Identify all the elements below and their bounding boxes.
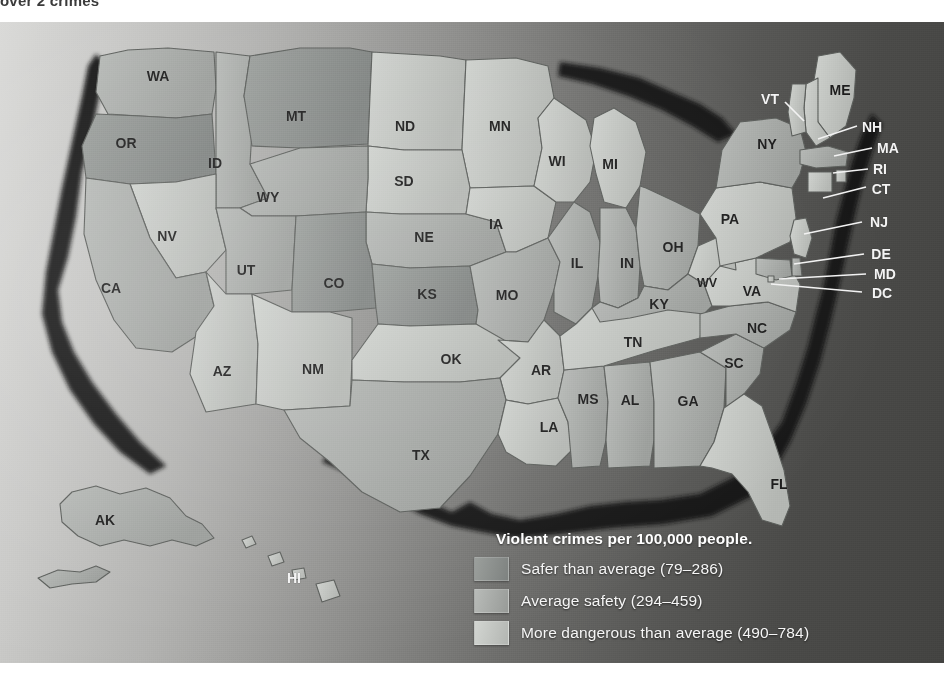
- state-label-AR: AR: [531, 362, 551, 378]
- state-label-TX: TX: [412, 447, 431, 463]
- map-screenshot: over 2 crimes: [0, 0, 944, 675]
- state-label-NM: NM: [302, 361, 324, 377]
- state-label-MI: MI: [602, 156, 618, 172]
- legend-swatch-safer: [474, 557, 509, 581]
- state-label-WV: WV: [697, 276, 718, 290]
- callout-label-MA: MA: [877, 140, 899, 156]
- state-label-NC: NC: [747, 320, 767, 336]
- state-MA: [800, 146, 848, 168]
- state-label-AL: AL: [621, 392, 640, 408]
- map-plate: WAORIDMTNDMNSDWIMIWYNEIAILINOHPANYNVUTCO…: [0, 22, 944, 663]
- state-label-MN: MN: [489, 118, 511, 134]
- state-UT: [216, 208, 296, 294]
- state-CT: [808, 172, 832, 192]
- state-OR: [82, 114, 216, 184]
- callout-label-DE: DE: [871, 246, 890, 262]
- state-label-MS: MS: [578, 391, 599, 407]
- state-label-KS: KS: [417, 286, 436, 302]
- state-label-ID: ID: [208, 155, 222, 171]
- state-label-WI: WI: [548, 153, 565, 169]
- state-label-WY: WY: [257, 189, 280, 205]
- legend-swatch-dangerous: [474, 621, 509, 645]
- legend-swatch-average: [474, 589, 509, 613]
- state-ND: [368, 52, 466, 150]
- callout-label-RI: RI: [873, 161, 887, 177]
- state-label-SC: SC: [724, 355, 743, 371]
- state-label-MO: MO: [496, 287, 519, 303]
- state-label-LA: LA: [540, 419, 559, 435]
- legend-item-dangerous: More dangerous than average (490–784): [474, 621, 920, 645]
- top-caption-text: over 2 crimes: [0, 0, 944, 10]
- state-label-IN: IN: [620, 255, 634, 271]
- state-label-OH: OH: [663, 239, 684, 255]
- state-MT: [244, 48, 372, 148]
- state-label-KY: KY: [649, 296, 669, 312]
- legend-item-average: Average safety (294–459): [474, 589, 920, 613]
- callout-label-DC: DC: [872, 285, 892, 301]
- state-DE: [792, 258, 802, 276]
- legend-title: Violent crimes per 100,000 people.: [496, 530, 920, 548]
- legend-item-safer: Safer than average (79–286): [474, 557, 920, 581]
- callout-label-VT: VT: [761, 91, 779, 107]
- legend-label-safer: Safer than average (79–286): [521, 560, 723, 578]
- callout-label-CT: CT: [872, 181, 891, 197]
- state-label-OK: OK: [441, 351, 462, 367]
- state-NJ: [790, 218, 812, 258]
- callout-label-MD: MD: [874, 266, 896, 282]
- state-WI: [534, 98, 596, 202]
- state-label-ND: ND: [395, 118, 415, 134]
- state-label-IA: IA: [489, 216, 503, 232]
- legend-label-average: Average safety (294–459): [521, 592, 703, 610]
- state-label-AK: AK: [95, 512, 115, 528]
- state-label-WA: WA: [147, 68, 170, 84]
- state-label-CO: CO: [324, 275, 345, 291]
- state-DC: [768, 276, 774, 282]
- state-WY: [240, 146, 368, 216]
- state-label-GA: GA: [678, 393, 699, 409]
- state-label-CA: CA: [101, 280, 121, 296]
- state-label-ME: ME: [830, 82, 851, 98]
- map-legend: Violent crimes per 100,000 people. Safer…: [474, 530, 920, 653]
- callout-label-NJ: NJ: [870, 214, 888, 230]
- callout-label-NH: NH: [862, 119, 882, 135]
- state-label-HI: HI: [287, 570, 301, 586]
- state-LA: [498, 398, 572, 466]
- state-label-NE: NE: [414, 229, 433, 245]
- state-label-MT: MT: [286, 108, 307, 124]
- state-label-TN: TN: [624, 334, 643, 350]
- state-MI: [590, 108, 646, 208]
- state-CO: [292, 212, 376, 312]
- state-label-UT: UT: [237, 262, 256, 278]
- state-label-NV: NV: [157, 228, 177, 244]
- state-label-VA: VA: [743, 283, 761, 299]
- state-label-PA: PA: [721, 211, 739, 227]
- state-label-FL: FL: [770, 476, 788, 492]
- state-label-IL: IL: [571, 255, 584, 271]
- state-label-SD: SD: [394, 173, 413, 189]
- state-label-OR: OR: [116, 135, 137, 151]
- legend-label-dangerous: More dangerous than average (490–784): [521, 624, 809, 642]
- state-SD: [366, 146, 470, 214]
- state-AK: [38, 486, 214, 588]
- state-label-NY: NY: [757, 136, 777, 152]
- callout-line-NJ: [804, 222, 862, 234]
- state-AL: [604, 362, 654, 468]
- state-VT: [788, 84, 806, 136]
- state-label-AZ: AZ: [213, 363, 232, 379]
